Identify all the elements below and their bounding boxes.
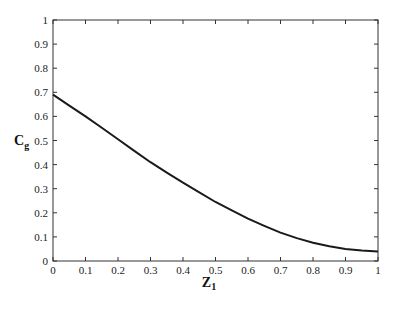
x-tick-label: 0.9 bbox=[339, 264, 353, 276]
x-tick-label: 0 bbox=[50, 264, 56, 276]
x-tick-label: 0.1 bbox=[79, 264, 93, 276]
y-tick-label: 0.6 bbox=[34, 110, 48, 122]
x-tick-label: 0.3 bbox=[144, 264, 158, 276]
x-tick-label: 0.8 bbox=[306, 264, 320, 276]
x-tick-label: 0.7 bbox=[274, 264, 288, 276]
x-tick-label: 0.2 bbox=[111, 264, 125, 276]
y-tick-label: 0.2 bbox=[34, 207, 48, 219]
y-tick-label: 0 bbox=[43, 255, 49, 267]
y-tick-label: 0.5 bbox=[34, 135, 48, 147]
y-axis-label: Cg bbox=[14, 133, 29, 151]
x-tick-label: 1 bbox=[375, 264, 381, 276]
plot-area bbox=[53, 20, 378, 261]
x-axis-label: Z1 bbox=[202, 275, 216, 292]
y-tick-label: 0.3 bbox=[34, 183, 48, 195]
y-tick-label: 1 bbox=[43, 14, 49, 26]
y-tick-label: 0.9 bbox=[34, 38, 48, 50]
y-tick-label: 0.8 bbox=[34, 62, 48, 74]
line-chart: 00.10.20.30.40.50.60.70.80.91 00.10.20.3… bbox=[0, 0, 395, 309]
y-tick-label: 0.1 bbox=[34, 231, 48, 243]
y-tick-label: 0.4 bbox=[34, 159, 48, 171]
y-tick-label: 0.7 bbox=[34, 86, 48, 98]
x-tick-label: 0.4 bbox=[176, 264, 190, 276]
x-tick-label: 0.6 bbox=[241, 264, 255, 276]
